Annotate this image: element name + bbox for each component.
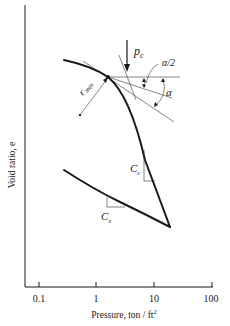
rmin-label: rmin: [76, 78, 96, 99]
alpha-half-arrow-bottom: [142, 84, 146, 88]
cs-label: Cs: [101, 210, 111, 225]
x-tick-label-0-1: 0.1: [33, 293, 46, 304]
alpha-half-leader: [146, 64, 158, 83]
curves: [64, 60, 170, 227]
x-axis-label: Pressure, ton / ft2: [91, 308, 157, 320]
alpha-arrow-top: [161, 78, 165, 82]
pc-arrow: [124, 40, 130, 72]
virgin-compression-curve: [64, 60, 170, 227]
alpha-half-label: α/2: [162, 57, 175, 68]
y-axis-label: Void ratio, e: [7, 142, 17, 189]
x-tick-label-10: 10: [149, 293, 159, 304]
x-tick-label-100: 100: [204, 293, 219, 304]
recompression-curve: [64, 170, 170, 227]
alpha-arrow-bottom: [154, 102, 158, 107]
alpha-label: α: [166, 86, 172, 98]
arrowheads: [79, 77, 165, 116]
alpha-half-arrow-top: [142, 78, 146, 82]
pc-label: pc: [133, 44, 144, 60]
cc-slope-triangle: [144, 150, 155, 181]
x-tick-label-1: 1: [94, 293, 99, 304]
axes: [25, 5, 213, 287]
rmin-tail-dot: [79, 114, 81, 116]
max-curvature-point: [106, 75, 110, 79]
cc-label: Cc: [130, 162, 141, 177]
alpha-arc: [155, 79, 164, 106]
consolidation-diagram: 0.1 1 10 100 Pressure, ton / ft2 Void ra…: [0, 0, 230, 326]
construction-lines: [80, 55, 180, 207]
